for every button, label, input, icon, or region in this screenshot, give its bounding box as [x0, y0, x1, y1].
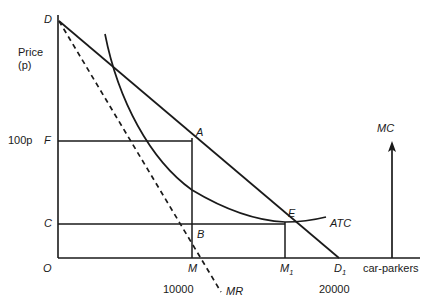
quantity-label-M: M: [188, 262, 197, 275]
quantity-value-20000: 20000: [319, 283, 350, 296]
quantity-label-D1-sub: 1: [342, 268, 346, 277]
quantity-label-M1: M1: [280, 262, 293, 278]
point-label-E: E: [288, 207, 295, 220]
demand-curve: [59, 21, 339, 258]
price-axis-label-line1: Price: [18, 46, 43, 59]
average-total-cost-label: ATC: [330, 217, 351, 230]
point-label-B: B: [197, 228, 204, 241]
price-level-label-F: F: [44, 134, 51, 147]
origin-label: O: [43, 262, 52, 275]
quantity-label-M1-base: M: [280, 262, 289, 274]
point-label-A: A: [196, 126, 203, 139]
quantity-label-M1-sub: 1: [289, 268, 293, 277]
quantity-axis-label: car-parkers: [363, 262, 419, 275]
marginal-cost-label: MC: [377, 122, 394, 135]
price-level-label-C: C: [44, 217, 52, 230]
marginal-revenue-curve: [59, 21, 221, 292]
economics-diagram: D Price (p) 100p F C O A B E ATC MC MR M…: [0, 0, 435, 308]
demand-curve-top-label: D: [44, 13, 52, 26]
quantity-label-D1-base: D: [334, 262, 342, 274]
price-tick-100p: 100p: [8, 134, 32, 147]
marginal-revenue-label: MR: [226, 285, 243, 298]
quantity-value-10000: 10000: [163, 283, 194, 296]
price-axis-label-line2: (p): [18, 59, 31, 72]
average-total-cost-curve: [105, 34, 326, 222]
quantity-label-D1: D1: [334, 262, 346, 278]
